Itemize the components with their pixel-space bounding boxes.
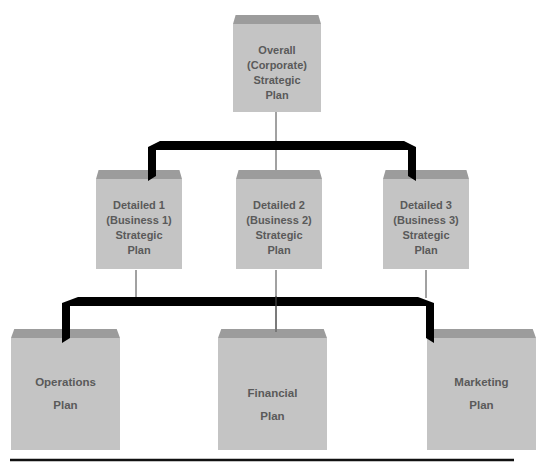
node-label: Marketing Plan [427,375,536,413]
node-top-face [383,170,469,179]
node-overall: Overall (Corporate) Strategic Plan [233,24,321,112]
node-label: Detailed 1 (Business 1) Strategic Plan [96,198,182,258]
node-label-line: Plan [236,243,322,258]
node-label-line: Detailed 1 [96,198,182,213]
node-label-line: Marketing [427,375,536,390]
node-label-line: Strategic [236,228,322,243]
node-label-line: Strategic [233,73,321,88]
node-label-line: Detailed 2 [236,198,322,213]
node-label-line: Overall [233,43,321,58]
node-top-face [11,329,120,338]
node-financial: Financial Plan [218,338,327,450]
node-label-line: Strategic [96,228,182,243]
node-label-line: Financial [218,386,327,401]
node-top-face [236,170,322,179]
node-label-line: Plan [218,409,327,424]
node-label-line: Detailed 3 [383,198,469,213]
node-label-line: Plan [383,243,469,258]
node-label-line: Plan [96,243,182,258]
node-top-face [233,15,321,24]
node-detailed-2: Detailed 2 (Business 2) Strategic Plan [236,179,322,269]
node-label: Financial Plan [218,386,327,424]
node-label-line: (Business 3) [383,213,469,228]
node-detailed-3: Detailed 3 (Business 3) Strategic Plan [383,179,469,269]
node-detailed-1: Detailed 1 (Business 1) Strategic Plan [96,179,182,269]
node-operations: Operations Plan [11,338,120,450]
node-label-line: Plan [233,88,321,103]
node-top-face [96,170,182,179]
node-label-line: (Corporate) [233,58,321,73]
node-top-face [218,329,327,338]
node-label-line: Plan [427,398,536,413]
node-label-line: Operations [11,375,120,390]
node-marketing: Marketing Plan [427,338,536,450]
node-label: Detailed 3 (Business 3) Strategic Plan [383,198,469,258]
node-label-line: (Business 1) [96,213,182,228]
node-label: Operations Plan [11,375,120,413]
node-label: Overall (Corporate) Strategic Plan [233,43,321,103]
node-label-line: Strategic [383,228,469,243]
node-top-face [427,329,536,338]
node-label-line: Plan [11,398,120,413]
node-label: Detailed 2 (Business 2) Strategic Plan [236,198,322,258]
node-label-line: (Business 2) [236,213,322,228]
